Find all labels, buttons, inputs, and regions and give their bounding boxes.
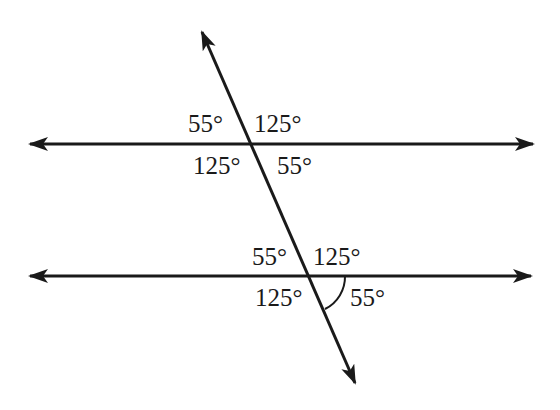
transversal-line <box>202 32 355 383</box>
angle-label-top-lower-left: 125° <box>193 152 241 179</box>
angle-label-bottom-lower-right: 55° <box>350 284 385 311</box>
angle-label-top-lower-right: 55° <box>277 152 312 179</box>
angle-label-top-upper-left: 55° <box>188 110 223 137</box>
angle-label-bottom-lower-left: 125° <box>255 284 303 311</box>
angle-label-bottom-upper-right: 125° <box>313 243 361 270</box>
angle-label-top-upper-right: 125° <box>254 110 302 137</box>
angle-label-bottom-upper-left: 55° <box>252 243 287 270</box>
angle-arc <box>325 276 345 309</box>
parallel-lines-diagram: 55° 125° 125° 55° 55° 125° 125° 55° <box>0 0 560 410</box>
